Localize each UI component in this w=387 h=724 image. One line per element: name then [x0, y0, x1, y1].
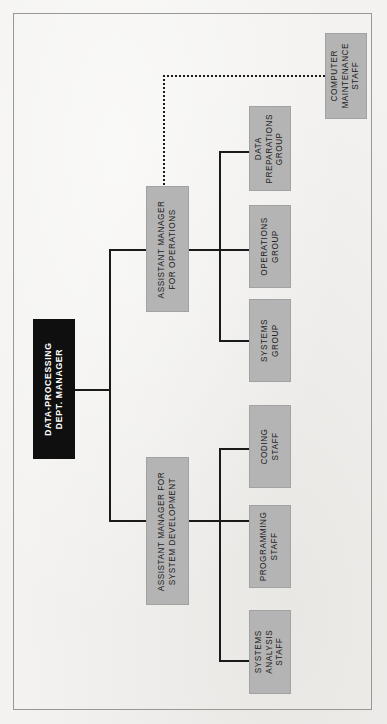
node-label: ASSISTANT MANAGER FOR SYSTEM DEVELOPMENT: [157, 471, 178, 591]
connector-to-assistant-development: [109, 520, 146, 522]
connector-development-stub: [189, 520, 221, 522]
node-operations-group[interactable]: OPERATIONS GROUP: [249, 205, 291, 288]
node-label: OPERATIONS GROUP: [260, 217, 281, 276]
node-assistant-manager-system-development[interactable]: ASSISTANT MANAGER FOR SYSTEM DEVELOPMENT: [146, 457, 189, 605]
connector-operations-stub: [189, 249, 221, 251]
node-systems-analysis-staff[interactable]: SYSTEMS ANALYSIS STAFF: [249, 610, 291, 694]
node-coding-staff[interactable]: CODING STAFF: [249, 405, 291, 488]
node-computer-maintenance-staff[interactable]: COMPUTER MAINTENANCE STAFF: [325, 33, 367, 119]
node-root-data-processing-manager[interactable]: DATA-PROCESSING DEPT. MANAGER: [33, 319, 75, 459]
node-data-preparations-group[interactable]: DATA PREPARATIONS GROUP: [249, 106, 291, 191]
org-chart-page: DATA-PROCESSING DEPT. MANAGER ASSISTANT …: [0, 0, 387, 724]
dotted-connector-horizontal: [163, 75, 325, 77]
node-assistant-manager-operations[interactable]: ASSISTANT MANAGER FOR OPERATIONS: [146, 186, 189, 312]
connector-to-programming-staff: [219, 520, 249, 522]
node-label: DATA PREPARATIONS GROUP: [254, 114, 286, 184]
node-label: ASSISTANT MANAGER FOR OPERATIONS: [157, 200, 178, 298]
connector-to-assistant-operations: [109, 249, 146, 251]
connector-to-coding-staff: [219, 448, 249, 450]
connector-to-systems-group: [219, 340, 249, 342]
connector-root-spine: [109, 249, 111, 522]
node-label: PROGRAMMING STAFF: [260, 512, 281, 582]
node-programming-staff[interactable]: PROGRAMMING STAFF: [249, 505, 291, 588]
dotted-connector-vertical: [163, 75, 165, 187]
node-label: SYSTEMS ANALYSIS STAFF: [254, 630, 286, 674]
connector-to-operations-group: [219, 249, 249, 251]
connector-development-spine: [219, 448, 221, 662]
node-label: DATA-PROCESSING DEPT. MANAGER: [43, 342, 65, 435]
node-label: CODING STAFF: [260, 428, 281, 464]
node-label: COMPUTER MAINTENANCE STAFF: [330, 43, 362, 109]
node-systems-group[interactable]: SYSTEMS GROUP: [249, 299, 291, 382]
connector-to-data-preparations: [219, 151, 249, 153]
node-label: SYSTEMS GROUP: [260, 319, 281, 362]
connector-root-stub: [75, 389, 111, 391]
connector-to-systems-analysis-staff: [219, 660, 249, 662]
connector-operations-spine: [219, 151, 221, 342]
